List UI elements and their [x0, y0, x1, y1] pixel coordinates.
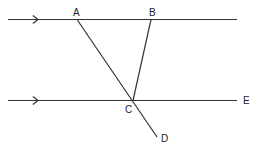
- segment-bc: [133, 20, 151, 101]
- geometry-diagram: A B C D E: [0, 0, 254, 149]
- label-d: D: [161, 133, 168, 144]
- segment-ad: [77, 20, 157, 138]
- label-a: A: [73, 7, 80, 18]
- label-b: B: [149, 7, 156, 18]
- label-c: C: [125, 104, 132, 115]
- label-e: E: [243, 95, 250, 106]
